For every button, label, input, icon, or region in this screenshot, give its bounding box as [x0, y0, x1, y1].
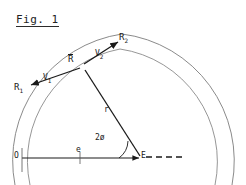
- label-R-bar-text: R: [68, 54, 73, 64]
- label-V2-sub: 2: [100, 53, 104, 60]
- label-R2: R2: [119, 33, 128, 44]
- label-r: r: [104, 106, 109, 114]
- label-O: O: [14, 152, 19, 160]
- arc-inner: [27, 49, 217, 185]
- label-V1: V1: [43, 74, 51, 84]
- label-R-bar: R: [68, 54, 73, 64]
- vector-v1: [31, 68, 80, 85]
- label-E: E: [141, 152, 146, 160]
- figure-canvas: [0, 0, 246, 185]
- label-R2-sub: 2: [124, 37, 128, 44]
- arc-outer: [13, 34, 235, 185]
- label-V2: V2: [95, 50, 103, 60]
- label-R1-sub: 1: [19, 87, 23, 94]
- figure-title: Fig. 1: [16, 14, 59, 27]
- label-V1-sub: 1: [48, 77, 52, 84]
- label-R1: R1: [14, 83, 23, 94]
- angle-arc-2phi: [119, 141, 128, 158]
- vector-r: [85, 70, 140, 156]
- label-e: e: [76, 146, 81, 154]
- label-2phi: 2ø: [95, 134, 105, 142]
